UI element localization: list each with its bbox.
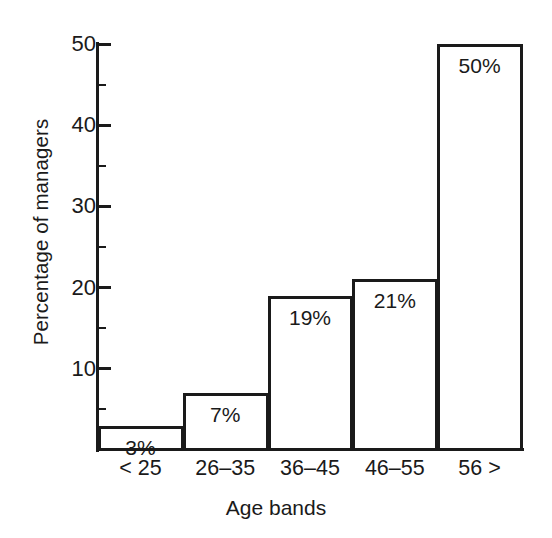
y-axis-minor-tick (98, 327, 106, 329)
y-axis-major-tick (98, 43, 111, 46)
bar-value-label: 21% (374, 290, 416, 311)
y-axis-tick-label: 10 (54, 358, 96, 380)
bar-value-label: 7% (210, 404, 240, 425)
x-axis-tick-label: 36–45 (268, 458, 353, 480)
y-axis-major-tick (98, 286, 111, 289)
bar-value-label: 50% (459, 55, 501, 76)
bar-value-label: 3% (125, 437, 155, 458)
y-axis-major-tick (98, 205, 111, 208)
x-axis-tick-label: 56 > (437, 458, 522, 480)
y-axis-title: Percentage of managers (22, 12, 60, 452)
x-axis-tick-label: < 25 (98, 458, 183, 480)
x-axis-tick-label: 26–35 (183, 458, 268, 480)
y-axis-minor-tick (98, 246, 106, 248)
y-axis-major-tick (98, 124, 111, 127)
y-axis-tick-label: 30 (54, 195, 96, 217)
y-axis-major-tick (98, 367, 111, 370)
y-axis-tick-label: 20 (54, 277, 96, 299)
y-axis-tick-label: 50 (54, 33, 96, 55)
bar-chart: Percentage of managers 1020304050 3%7%19… (0, 0, 552, 538)
x-axis-tick-label: 46–55 (352, 458, 437, 480)
bar (437, 44, 523, 451)
y-axis-minor-tick (98, 165, 106, 167)
x-axis-title: Age bands (0, 497, 552, 518)
y-axis-tick-label: 40 (54, 114, 96, 136)
y-axis-minor-tick (98, 408, 106, 410)
bar-value-label: 19% (289, 307, 331, 328)
y-axis-minor-tick (98, 84, 106, 86)
